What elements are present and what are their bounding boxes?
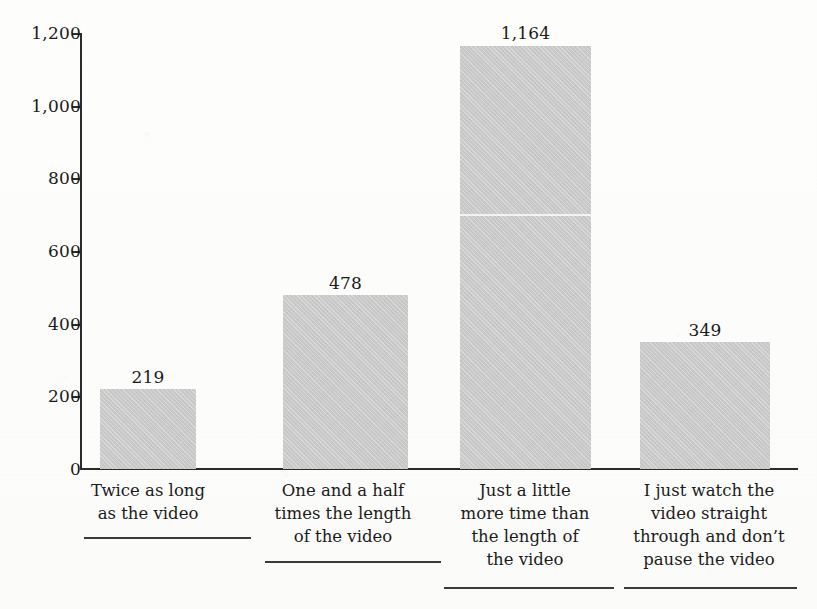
scan-seam-artifact bbox=[460, 214, 591, 216]
bar-value-label: 349 bbox=[640, 320, 770, 340]
y-tick-label: 1,000 bbox=[19, 96, 81, 116]
y-tick-label: 800 bbox=[19, 168, 81, 188]
category-label-twice-as-long: Twice as long as the video bbox=[84, 479, 212, 525]
category-line: One and a half bbox=[265, 479, 421, 502]
category-rule-4 bbox=[624, 587, 797, 589]
y-tick-label: 200 bbox=[19, 386, 81, 406]
category-label-one-and-a-half: One and a half times the length of the v… bbox=[265, 479, 421, 548]
category-line: of the video bbox=[265, 525, 421, 548]
bar-just-a-little-more[interactable] bbox=[460, 46, 591, 469]
bar-chart: 1,200 1,000 800 600 400 200 0 bbox=[0, 0, 817, 609]
category-line: Twice as long bbox=[84, 479, 212, 502]
category-line: pause the video bbox=[626, 548, 792, 571]
category-rule-3 bbox=[444, 587, 614, 589]
category-line: video straight bbox=[626, 502, 792, 525]
y-tick-label: 400 bbox=[19, 314, 81, 334]
category-line: more time than bbox=[452, 502, 598, 525]
y-tick-label: 0 bbox=[19, 459, 81, 479]
bar-value-label: 219 bbox=[100, 367, 196, 387]
category-rule-1 bbox=[84, 537, 251, 539]
y-axis-line bbox=[80, 33, 82, 470]
category-line: as the video bbox=[84, 502, 212, 525]
category-rule-2 bbox=[265, 561, 441, 563]
bar-one-and-a-half[interactable] bbox=[283, 295, 408, 469]
category-line: times the length bbox=[265, 502, 421, 525]
category-line: the video bbox=[452, 548, 598, 571]
category-line: through and don’t bbox=[626, 525, 792, 548]
bar-value-label: 1,164 bbox=[460, 23, 591, 43]
y-tick-label: 1,200 bbox=[19, 23, 81, 43]
category-label-just-a-little-more: Just a little more time than the length … bbox=[452, 479, 598, 571]
bar-watch-straight-through[interactable] bbox=[640, 342, 770, 469]
category-line: the length of bbox=[452, 525, 598, 548]
y-tick-label: 600 bbox=[19, 241, 81, 261]
category-line: Just a little bbox=[452, 479, 598, 502]
category-line: I just watch the bbox=[626, 479, 792, 502]
bar-twice-as-long[interactable] bbox=[100, 389, 196, 469]
bar-value-label: 478 bbox=[283, 273, 408, 293]
category-label-watch-straight-through: I just watch the video straight through … bbox=[626, 479, 792, 571]
